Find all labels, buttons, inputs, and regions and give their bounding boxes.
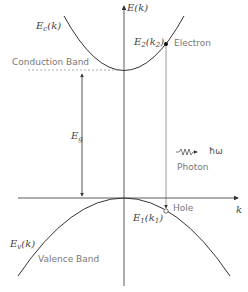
- conduction-band-label: Conduction Band: [12, 57, 89, 67]
- electron-energy-label: E2(k2): [134, 36, 164, 49]
- hole-label: Hole: [173, 203, 193, 213]
- valence-band-function-label: Ev(k): [10, 238, 35, 251]
- energy-axis-label: E(k): [127, 2, 148, 13]
- photon-label: Photon: [177, 162, 208, 172]
- photon-energy-label: ħω: [209, 146, 223, 156]
- valence-band-label: Valence Band: [38, 254, 99, 264]
- electron-label: Electron: [174, 38, 211, 48]
- conduction-band-function-label: Ec(k): [36, 20, 61, 33]
- photon-wave-icon: [176, 149, 197, 155]
- k-axis-label: k: [236, 204, 242, 215]
- electron-dot: [164, 42, 168, 46]
- band-gap-label: Eg: [71, 130, 83, 143]
- hole-dot: [164, 209, 168, 213]
- hole-energy-label: E1(k1): [133, 212, 163, 225]
